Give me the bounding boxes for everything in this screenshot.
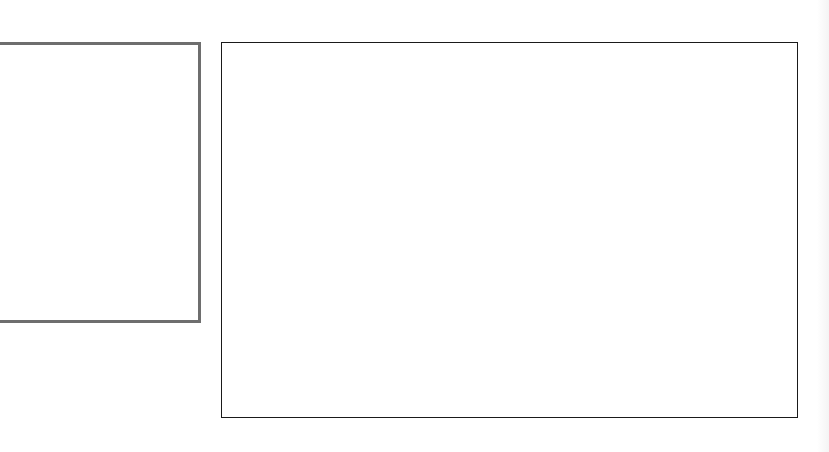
right-edge-strip <box>817 0 829 452</box>
main-panel <box>221 42 798 418</box>
canvas <box>0 0 829 452</box>
left-panel <box>0 42 201 323</box>
